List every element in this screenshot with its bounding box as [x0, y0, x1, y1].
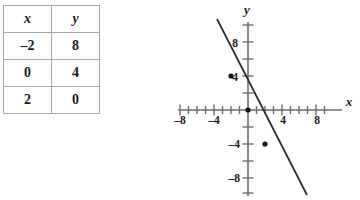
x-tick-label: 4 — [280, 114, 286, 126]
x-tick-label: –4 — [207, 114, 220, 126]
value-table: x y –2 8 0 4 2 0 — [3, 5, 100, 114]
table-row: 2 0 — [4, 87, 100, 114]
y-tick-label: 8 — [232, 37, 238, 49]
data-point — [262, 141, 267, 146]
data-point — [245, 107, 250, 112]
graph-svg: –8 –4 4 8 8 4 –4 –8 x y — [170, 0, 360, 200]
table-cell-y: 0 — [52, 87, 100, 114]
table-cell-x: 0 — [4, 60, 52, 87]
x-tick-label: 8 — [314, 114, 320, 126]
figure-root: x y –2 8 0 4 2 0 — [0, 0, 360, 200]
y-tick-label: –4 — [228, 138, 241, 150]
y-axis-label: y — [242, 2, 250, 17]
table-header-y: y — [52, 6, 100, 33]
table-row: 0 4 — [4, 60, 100, 87]
x-axis-label: x — [345, 94, 353, 109]
table-header-row: x y — [4, 6, 100, 33]
value-table-container: x y –2 8 0 4 2 0 — [3, 5, 100, 114]
table-header-x: x — [4, 6, 52, 33]
coordinate-graph: –8 –4 4 8 8 4 –4 –8 x y — [170, 0, 360, 200]
table-cell-x: 2 — [4, 87, 52, 114]
x-tick-label: –8 — [173, 114, 186, 126]
table-row: –2 8 — [4, 33, 100, 60]
table-cell-x: –2 — [4, 33, 52, 60]
y-tick-label: 4 — [232, 71, 238, 83]
table-cell-y: 8 — [52, 33, 100, 60]
table-cell-y: 4 — [52, 60, 100, 87]
y-tick-label: –8 — [228, 172, 241, 184]
